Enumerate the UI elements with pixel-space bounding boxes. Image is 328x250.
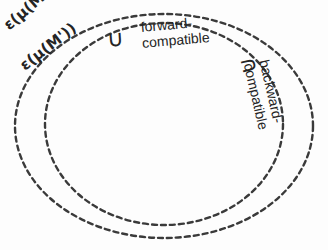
- forward-compatible-label: forward- compatible: [140, 13, 210, 51]
- set-diagram-figure: ε(μ(M)) ε(μ(M')) ∪ forward- compatible ∩…: [0, 0, 328, 250]
- union-symbol: ∪: [106, 25, 125, 52]
- inner-ellipse: [45, 23, 283, 225]
